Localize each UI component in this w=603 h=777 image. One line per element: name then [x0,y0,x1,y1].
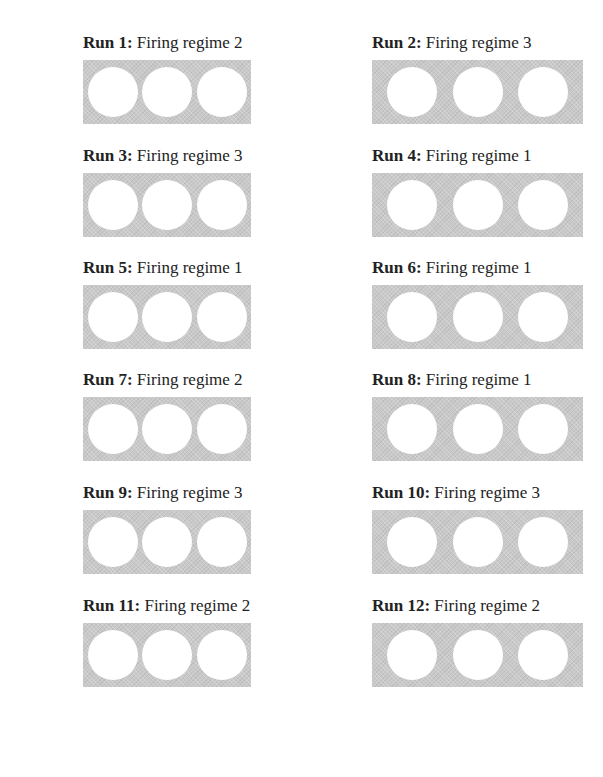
run-number: Run 1: [83,33,133,52]
hole-circle [518,517,568,567]
hole-circle [387,517,437,567]
run-label: Run 10: Firing regime 3 [372,483,583,503]
hole-circle [197,404,247,454]
firing-regime: Firing regime 3 [426,33,532,52]
hole-circle [518,292,568,342]
run-panel: Run 7: Firing regime 2 [83,370,251,390]
run-label: Run 3: Firing regime 3 [83,146,251,166]
hole-circle [453,67,503,117]
hole-circle [453,180,503,230]
run-panel: Run 3: Firing regime 3 [83,146,251,166]
hole-circle [142,67,192,117]
firing-regime: Firing regime 1 [426,258,532,277]
hole-circle [518,404,568,454]
run-number: Run 8: [372,370,422,389]
run-panel: Run 6: Firing regime 1 [372,258,583,278]
target-panel [372,285,583,349]
run-label: Run 4: Firing regime 1 [372,146,583,166]
firing-regime: Firing regime 3 [137,483,243,502]
hole-circle [88,67,138,117]
hole-circle [387,404,437,454]
hole-circle [197,517,247,567]
run-panel: Run 4: Firing regime 1 [372,146,583,166]
run-panel: Run 2: Firing regime 3 [372,33,583,53]
firing-regime: Firing regime 3 [434,483,540,502]
hole-circle [88,292,138,342]
target-panel [372,397,583,461]
hole-circle [197,67,247,117]
firing-regime: Firing regime 2 [434,596,540,615]
hole-circle [518,630,568,680]
target-panel [372,623,583,687]
run-number: Run 11: [83,596,140,615]
run-number: Run 4: [372,146,422,165]
hole-circle [453,630,503,680]
firing-regime: Firing regime 2 [137,370,243,389]
hole-circle [142,404,192,454]
hole-circle [387,180,437,230]
run-label: Run 7: Firing regime 2 [83,370,251,390]
hole-circle [88,180,138,230]
run-number: Run 3: [83,146,133,165]
firing-regime: Firing regime 2 [137,33,243,52]
hole-circle [88,404,138,454]
target-panel [83,60,251,124]
run-number: Run 5: [83,258,133,277]
target-panel [83,285,251,349]
firing-regime: Firing regime 1 [137,258,243,277]
hole-circle [387,630,437,680]
run-number: Run 6: [372,258,422,277]
run-number: Run 10: [372,483,430,502]
run-panel: Run 9: Firing regime 3 [83,483,251,503]
run-label: Run 12: Firing regime 2 [372,596,583,616]
firing-regime: Firing regime 2 [144,596,250,615]
run-label: Run 2: Firing regime 3 [372,33,583,53]
run-panel: Run 10: Firing regime 3 [372,483,583,503]
run-panel: Run 12: Firing regime 2 [372,596,583,616]
target-panel [83,397,251,461]
hole-circle [197,180,247,230]
hole-circle [197,292,247,342]
run-label: Run 6: Firing regime 1 [372,258,583,278]
run-panel: Run 1: Firing regime 2 [83,33,251,53]
run-panel: Run 5: Firing regime 1 [83,258,251,278]
run-number: Run 12: [372,596,430,615]
run-panel: Run 11: Firing regime 2 [83,596,251,616]
hole-circle [453,517,503,567]
target-panel [372,510,583,574]
hole-circle [387,67,437,117]
firing-regime: Firing regime 1 [426,146,532,165]
hole-circle [387,292,437,342]
target-panel [83,510,251,574]
run-number: Run 7: [83,370,133,389]
hole-circle [518,180,568,230]
target-panel [372,60,583,124]
target-panel [372,173,583,237]
target-panel [83,623,251,687]
run-panel: Run 8: Firing regime 1 [372,370,583,390]
hole-circle [142,517,192,567]
hole-circle [142,292,192,342]
target-panel [83,173,251,237]
firing-regime: Firing regime 1 [426,370,532,389]
hole-circle [453,404,503,454]
firing-regime: Firing regime 3 [137,146,243,165]
hole-circle [88,630,138,680]
hole-circle [142,180,192,230]
hole-circle [142,630,192,680]
run-label: Run 9: Firing regime 3 [83,483,251,503]
run-label: Run 11: Firing regime 2 [83,596,251,616]
run-number: Run 2: [372,33,422,52]
hole-circle [197,630,247,680]
run-label: Run 8: Firing regime 1 [372,370,583,390]
run-label: Run 5: Firing regime 1 [83,258,251,278]
run-label: Run 1: Firing regime 2 [83,33,251,53]
run-number: Run 9: [83,483,133,502]
hole-circle [88,517,138,567]
hole-circle [518,67,568,117]
hole-circle [453,292,503,342]
